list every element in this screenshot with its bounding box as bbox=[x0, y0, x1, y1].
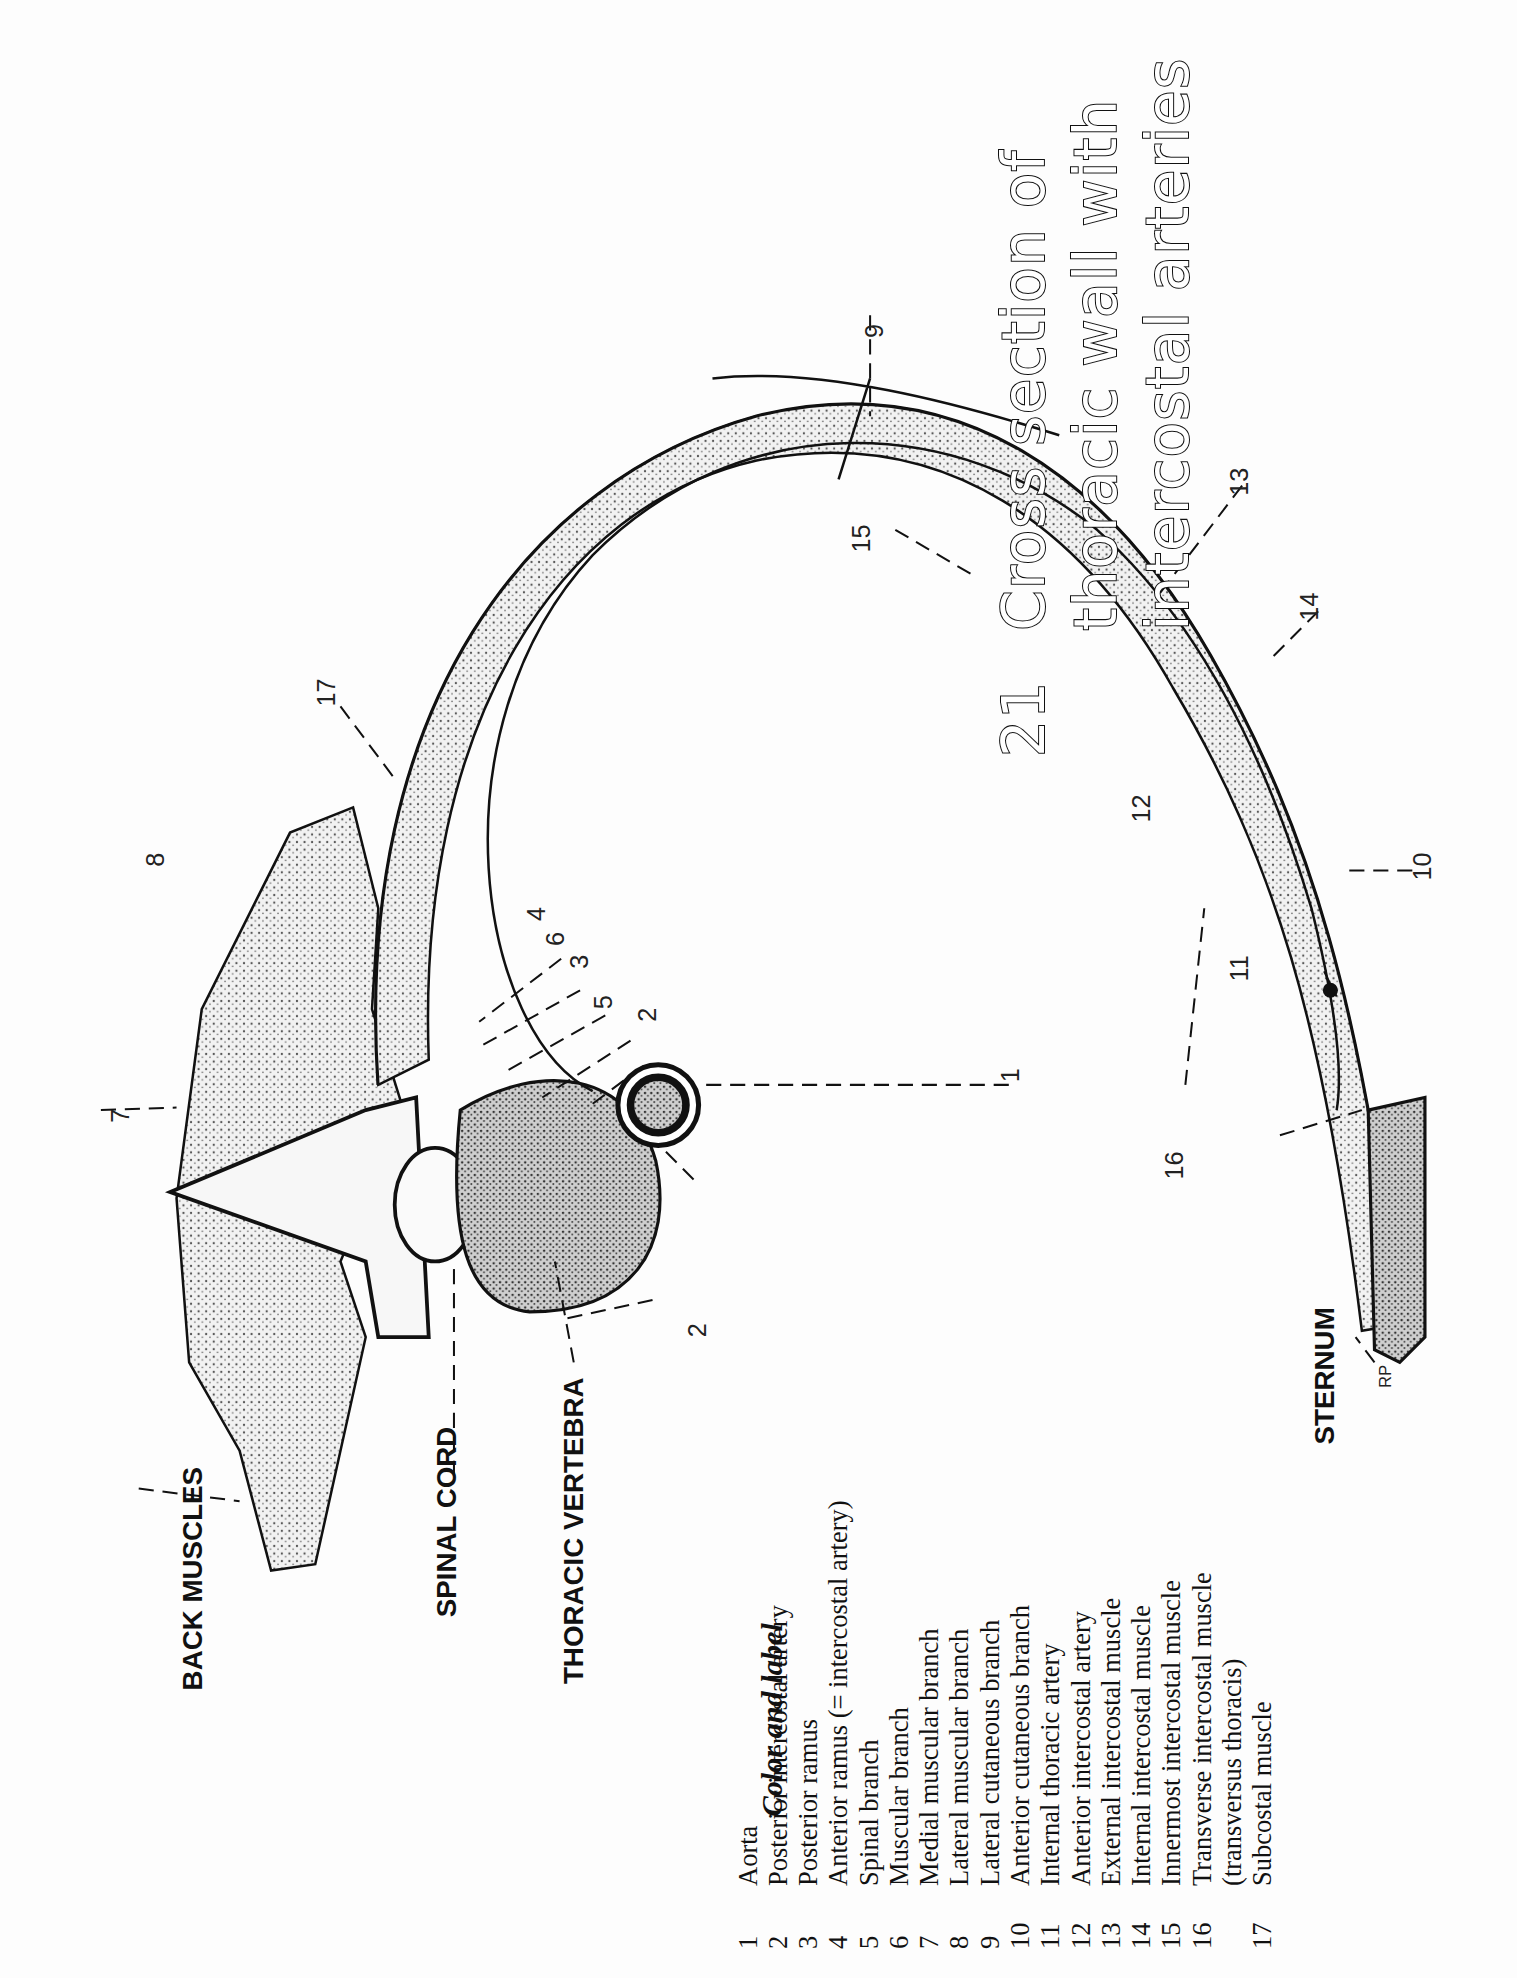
callout-3: 3 bbox=[565, 955, 593, 969]
plate-title-line-1: Cross section of bbox=[990, 149, 1058, 630]
legend-num-16: 16 bbox=[1187, 1923, 1217, 1949]
callout-10: 10 bbox=[1408, 852, 1436, 880]
callout-5: 5 bbox=[589, 995, 617, 1009]
legend-num-7: 7 bbox=[914, 1936, 944, 1949]
plate-title-line-2: thoracic wall with bbox=[1062, 99, 1130, 631]
legend-label-17: Subcostal muscle bbox=[1247, 1701, 1277, 1886]
label-back-muscles: BACK MUSCLES bbox=[177, 1467, 208, 1690]
callout-17: 17 bbox=[312, 678, 340, 706]
legend-num-15: 15 bbox=[1156, 1923, 1186, 1949]
legend-num-12: 12 bbox=[1066, 1923, 1096, 1949]
callout-7: 7 bbox=[106, 1109, 134, 1123]
legend-label-6: Muscular branch bbox=[884, 1707, 914, 1886]
label-spinal-cord: SPINAL CORD bbox=[431, 1427, 462, 1618]
artist-initials: RP bbox=[1376, 1365, 1394, 1388]
text-layer: 21 Cross section of thoracic wall with i… bbox=[0, 0, 1517, 1978]
callout-11: 11 bbox=[1225, 955, 1253, 981]
label-thoracic-vertebra: THORACIC VERTEBRA bbox=[558, 1377, 589, 1684]
legend-num-10: 10 bbox=[1005, 1923, 1035, 1949]
callout-8: 8 bbox=[141, 853, 169, 867]
legend-num-14: 14 bbox=[1126, 1923, 1156, 1949]
legend-num-17: 17 bbox=[1247, 1923, 1277, 1949]
anatomy-plate-page: 21 Cross section of thoracic wall with i… bbox=[0, 0, 1517, 1978]
legend-label-2: Posterior intercostal artery bbox=[763, 1604, 793, 1886]
legend-label-14: Internal intercostal muscle bbox=[1126, 1605, 1156, 1886]
callout-1: 1 bbox=[996, 1068, 1024, 1082]
legend-num-5: 5 bbox=[854, 1936, 884, 1949]
plate-number: 21 bbox=[990, 681, 1058, 757]
callout-12: 12 bbox=[1127, 794, 1155, 822]
legend-num-13: 13 bbox=[1096, 1923, 1126, 1949]
legend-num-1: 1 bbox=[733, 1936, 763, 1949]
legend-label-9: Lateral cutaneous branch bbox=[975, 1620, 1005, 1886]
legend-label-15: Innermost intercostal muscle bbox=[1156, 1580, 1186, 1886]
legend-label-7: Medial muscular branch bbox=[914, 1629, 944, 1886]
callout-15: 15 bbox=[847, 524, 875, 552]
legend-label-3: Posterior ramus bbox=[793, 1719, 823, 1886]
callout-14: 14 bbox=[1295, 593, 1323, 621]
callout-2-lower: 2 bbox=[683, 1323, 711, 1337]
callout-9: 9 bbox=[860, 324, 888, 338]
callout-6: 6 bbox=[541, 932, 569, 946]
legend-num-6: 6 bbox=[884, 1936, 914, 1949]
legend-num-2: 2 bbox=[763, 1936, 793, 1949]
callout-2-upper: 2 bbox=[633, 1008, 661, 1022]
legend-label-8: Lateral muscular branch bbox=[944, 1629, 974, 1886]
plate-title-line-3: intercostal arteries bbox=[1134, 57, 1202, 630]
legend-label-16: Transverse intercostal muscle bbox=[1187, 1572, 1217, 1886]
legend-num-9: 9 bbox=[975, 1936, 1005, 1949]
legend-num-11: 11 bbox=[1035, 1923, 1065, 1949]
label-sternum: STERNUM bbox=[1309, 1307, 1340, 1444]
legend-num-8: 8 bbox=[944, 1936, 974, 1949]
legend-list: 1 Aorta 2 Posterior intercostal artery 3… bbox=[733, 1500, 1277, 1948]
legend-label-12: Anterior intercostal artery bbox=[1066, 1610, 1096, 1886]
legend-label-1: Aorta bbox=[733, 1825, 763, 1886]
callout-13: 13 bbox=[1225, 468, 1253, 496]
legend-label-4: Anterior ramus (= intercostal artery) bbox=[823, 1500, 853, 1885]
legend-label-10: Anterior cutaneous branch bbox=[1005, 1605, 1035, 1886]
legend-label-16-cont: (transversus thoracis) bbox=[1217, 1659, 1247, 1886]
legend-label-13: External intercostal muscle bbox=[1096, 1598, 1126, 1886]
legend-num-3: 3 bbox=[793, 1936, 823, 1949]
callout-16: 16 bbox=[1160, 1151, 1188, 1179]
callout-4: 4 bbox=[522, 907, 550, 921]
legend-label-5: Spinal branch bbox=[854, 1740, 884, 1886]
legend-label-11: Internal thoracic artery bbox=[1035, 1643, 1065, 1886]
legend-num-4: 4 bbox=[823, 1936, 853, 1949]
